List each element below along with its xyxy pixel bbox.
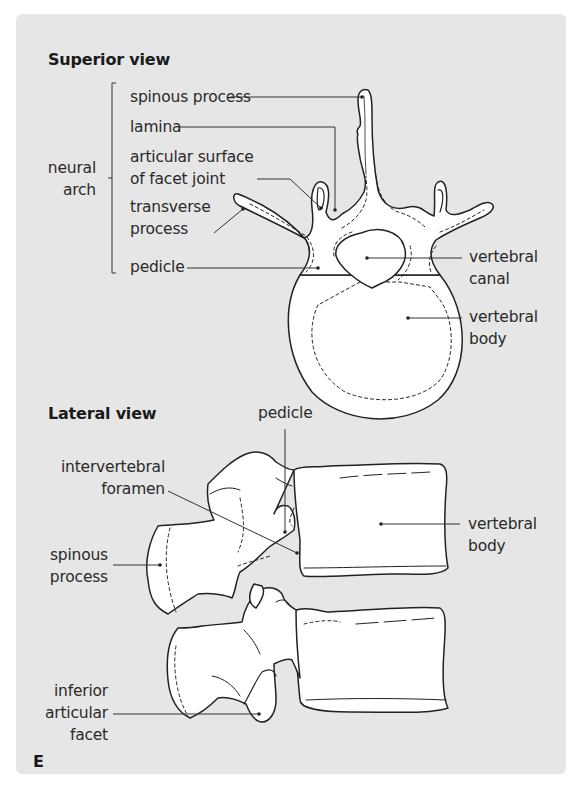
- leader-transverse-process: [214, 209, 243, 233]
- label-inferior-articular-facet: inferior articular facet: [45, 680, 108, 746]
- label-pedicle-superior: pedicle: [130, 256, 185, 278]
- label-lamina: lamina: [130, 116, 181, 138]
- label-transverse-process: transverse process: [130, 196, 211, 240]
- label-spinous-process: spinous process: [130, 86, 251, 108]
- label-pedicle-lateral: pedicle: [258, 402, 313, 424]
- label-vertebral-body-lateral: vertebral body: [468, 513, 537, 557]
- label-vertebral-canal: vertebral canal: [469, 246, 538, 290]
- lateral-lower-neural-arch: [167, 588, 300, 722]
- superior-vertebral-body: [288, 275, 462, 419]
- panel-letter: E: [33, 752, 44, 771]
- neural-arch-bracket: [112, 83, 116, 273]
- label-vertebral-body-superior: vertebral body: [469, 306, 538, 350]
- label-spinous-process-lateral: spinous process: [50, 544, 108, 588]
- lateral-upper-vertebra-drawing: [147, 452, 448, 614]
- vertebra-illustration: [0, 0, 586, 791]
- label-intervertebral-foramen: intervertebral foramen: [61, 456, 165, 500]
- neural-arch-label: neural arch: [48, 157, 96, 201]
- label-articular-surface: articular surface of facet joint: [130, 146, 254, 190]
- superior-view-title: Superior view: [48, 50, 170, 69]
- lateral-view-title: Lateral view: [48, 404, 156, 423]
- lateral-upper-vertebral-body: [294, 463, 448, 576]
- superior-vertebra-drawing: [234, 89, 494, 418]
- lateral-lower-vertebra-drawing: [167, 584, 448, 722]
